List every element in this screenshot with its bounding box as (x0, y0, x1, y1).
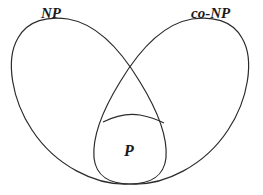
p-set-boundary (103, 114, 164, 123)
np-set-outline (11, 18, 166, 184)
p-label: P (124, 143, 134, 159)
conp-set-outline (94, 18, 249, 184)
conp-label: co-NP (191, 6, 230, 21)
venn-diagram (0, 0, 263, 195)
np-label: NP (41, 6, 61, 21)
